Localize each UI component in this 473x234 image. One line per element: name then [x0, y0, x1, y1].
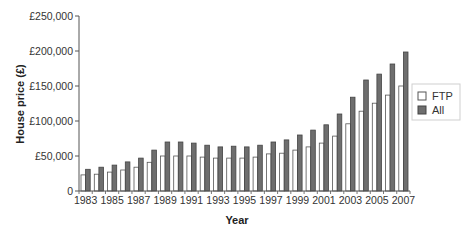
bar-ftp-1998 — [280, 153, 285, 191]
bar-ftp-1988 — [147, 162, 152, 191]
bar-ftp-1987 — [134, 167, 139, 191]
x-tick-label: 1991 — [180, 194, 204, 206]
bar-ftp-1994 — [227, 158, 232, 191]
bar-all-1996 — [258, 145, 263, 191]
y-tick-label: £100,000 — [29, 115, 73, 127]
bar-all-1991 — [192, 143, 197, 191]
y-tick-label: £50,000 — [35, 150, 73, 162]
y-axis: 0£50,000£100,000£150,000£200,000£250,000 — [29, 10, 79, 197]
bar-ftp-1993 — [213, 158, 218, 191]
bar-ftp-1985 — [108, 172, 113, 191]
bar-all-1992 — [205, 145, 210, 191]
bar-all-1986 — [125, 162, 130, 191]
bar-ftp-1990 — [174, 156, 179, 191]
x-tick-label: 2003 — [339, 194, 363, 206]
legend: FTP All — [412, 84, 460, 120]
x-tick-label: 1985 — [100, 194, 124, 206]
x-tick-label: 2005 — [365, 194, 389, 206]
y-axis-title: House price (£) — [14, 64, 26, 144]
legend-swatch-ftp — [418, 92, 426, 100]
y-tick-label: £250,000 — [29, 10, 73, 22]
bar-ftp-2003 — [346, 124, 351, 191]
bar-ftp-1986 — [121, 170, 126, 191]
legend-label-ftp: FTP — [432, 90, 453, 102]
x-tick-label: 1993 — [206, 194, 230, 206]
bar-all-1999 — [298, 135, 303, 191]
x-tick-label: 1997 — [259, 194, 283, 206]
bar-all-1993 — [218, 147, 223, 191]
y-tick-label: £150,000 — [29, 80, 73, 92]
bar-all-1990 — [178, 142, 183, 191]
bar-ftp-1991 — [187, 156, 192, 191]
bar-all-1994 — [231, 146, 236, 191]
x-tick-label: 2001 — [312, 194, 336, 206]
bar-ftp-2007 — [399, 86, 404, 191]
x-axis-title: Year — [225, 214, 249, 226]
bar-all-1997 — [271, 142, 276, 191]
x-axis: 1983198519871989199119931995199719992001… — [74, 191, 415, 206]
bar-ftp-1992 — [200, 157, 205, 191]
bar-all-1995 — [245, 147, 250, 191]
bar-all-2001 — [324, 125, 329, 191]
bar-chart: 0£50,000£100,000£150,000£200,000£250,000… — [0, 0, 473, 234]
bar-ftp-2001 — [319, 143, 324, 191]
bar-all-1985 — [112, 165, 117, 191]
bar-all-2003 — [350, 97, 355, 191]
bar-ftp-1999 — [293, 150, 298, 191]
bar-all-1984 — [99, 167, 104, 191]
bar-all-1987 — [139, 158, 144, 191]
bar-all-1989 — [165, 142, 170, 191]
bar-all-2000 — [311, 130, 316, 191]
x-tick-label: 1995 — [233, 194, 257, 206]
bar-all-1983 — [86, 169, 91, 191]
bar-ftp-1984 — [94, 174, 99, 191]
bar-ftp-1989 — [161, 156, 166, 191]
bar-all-2006 — [390, 64, 395, 191]
bar-ftp-2005 — [372, 103, 377, 191]
bar-all-1988 — [152, 150, 157, 191]
y-tick-label: £200,000 — [29, 45, 73, 57]
bar-all-2005 — [377, 74, 382, 191]
bar-ftp-2002 — [333, 136, 338, 191]
x-tick-label: 1999 — [286, 194, 310, 206]
y-tick-label: 0 — [67, 185, 73, 197]
legend-swatch-all — [418, 106, 426, 114]
plot-area — [81, 52, 408, 191]
bar-ftp-1996 — [253, 157, 258, 191]
bar-ftp-2006 — [386, 95, 391, 191]
legend-label-all: All — [432, 104, 444, 116]
bar-ftp-1997 — [266, 154, 271, 191]
bar-ftp-1983 — [81, 175, 86, 191]
bar-ftp-1995 — [240, 158, 245, 191]
bar-ftp-2004 — [359, 111, 364, 191]
bar-all-2002 — [337, 114, 342, 191]
x-tick-label: 1987 — [127, 194, 151, 206]
bar-all-2004 — [364, 80, 369, 191]
bar-ftp-2000 — [306, 147, 311, 191]
x-tick-label: 1983 — [74, 194, 98, 206]
x-tick-label: 2007 — [392, 194, 416, 206]
x-tick-label: 1989 — [153, 194, 177, 206]
bar-all-1998 — [284, 140, 289, 191]
bar-all-2007 — [403, 52, 408, 191]
